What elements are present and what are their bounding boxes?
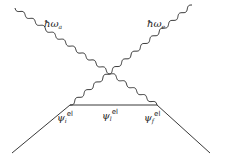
state-l-label: ψlel xyxy=(102,108,118,122)
state-i-label: ψiel xyxy=(57,110,73,124)
feynman-diagram: ħωa ħωe ψiel ψlel ψfel xyxy=(0,0,225,163)
state-f-label: ψfel xyxy=(144,110,160,124)
diagram-lines xyxy=(0,0,225,163)
photon-e-label: ħωe xyxy=(147,18,165,30)
emitted-photon-wave xyxy=(70,5,192,105)
outgoing-electron-line xyxy=(157,105,210,153)
photon-a-label: ħωa xyxy=(44,18,62,30)
